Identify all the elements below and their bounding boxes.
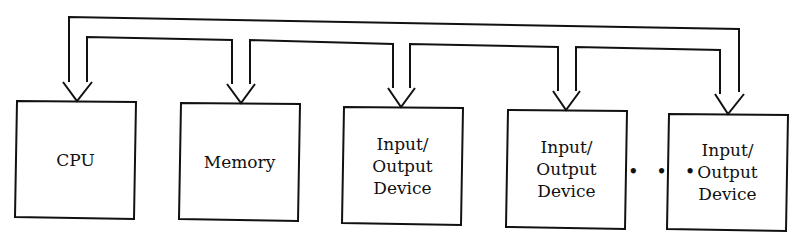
io2-label: Input/ Output Device	[506, 110, 627, 228]
cpu-label: CPU	[15, 101, 136, 218]
arrow-memory-icon	[227, 84, 255, 103]
io2-line1: Input/	[540, 136, 592, 158]
inner-bus-memory-io1	[250, 40, 393, 88]
cpu-text: CPU	[56, 149, 94, 171]
io3-line2: Output	[697, 161, 757, 183]
io3-label: Input/ Output Device	[667, 114, 788, 230]
io2-line2: Output	[536, 158, 596, 180]
inner-bus-io1-io2	[410, 44, 558, 91]
arrow-io2-icon	[553, 91, 580, 110]
inner-bus-cpu-memory	[87, 37, 232, 84]
arrow-io1-icon	[388, 88, 415, 107]
io2-line3: Device	[537, 180, 595, 202]
io1-line3: Device	[373, 177, 431, 199]
outer-bus-line	[69, 17, 739, 92]
arrow-io3-icon	[715, 94, 744, 114]
memory-text: Memory	[204, 151, 276, 173]
arrow-cpu-icon	[63, 82, 92, 101]
io3-line3: Device	[698, 183, 756, 205]
io3-line1: Input/	[701, 139, 753, 161]
io1-line1: Input/	[376, 133, 428, 155]
memory-label: Memory	[179, 103, 300, 220]
io1-line2: Output	[372, 155, 432, 177]
inner-bus-io2-io3	[576, 47, 720, 94]
io1-label: Input/ Output Device	[342, 107, 463, 224]
